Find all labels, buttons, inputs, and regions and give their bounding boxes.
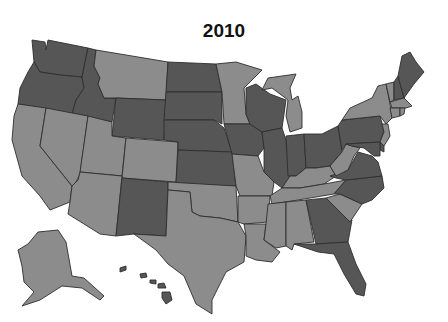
- state-ri[interactable]: [400, 108, 405, 116]
- state-nd[interactable]: [166, 62, 222, 92]
- state-mt[interactable]: [94, 50, 168, 100]
- state-in[interactable]: [286, 134, 306, 176]
- state-me[interactable]: [398, 52, 424, 98]
- us-state-map: [0, 0, 448, 322]
- state-ar[interactable]: [238, 196, 270, 224]
- state-ct[interactable]: [390, 108, 400, 118]
- state-ms[interactable]: [264, 202, 286, 248]
- state-co[interactable]: [122, 138, 178, 182]
- state-hi[interactable]: [120, 266, 172, 304]
- state-fl[interactable]: [294, 242, 366, 296]
- state-nm[interactable]: [116, 178, 168, 236]
- state-ks[interactable]: [176, 150, 236, 186]
- state-az[interactable]: [68, 172, 122, 236]
- state-wy[interactable]: [112, 98, 166, 140]
- state-sd[interactable]: [164, 92, 222, 124]
- state-wa[interactable]: [32, 40, 88, 77]
- state-ak[interactable]: [18, 230, 104, 306]
